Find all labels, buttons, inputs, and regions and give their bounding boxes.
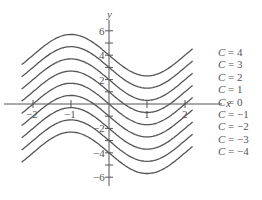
curve-labels: C = 4C = 3C = 2C = 1C = 0C = −1C = −2C =… bbox=[218, 46, 249, 157]
y-tick-label: 2 bbox=[99, 74, 105, 86]
x-tick-label: 1 bbox=[144, 108, 150, 120]
curve-label: C = −4 bbox=[218, 145, 249, 157]
chart-plot: xy−2−112642−2−4−6 C = 4C = 3C = 2C = 1C … bbox=[0, 0, 262, 200]
x-tick-label: −1 bbox=[64, 108, 76, 120]
curve-label: C = 3 bbox=[218, 58, 243, 70]
curve-label: C = −1 bbox=[218, 108, 249, 120]
curve-label: C = −3 bbox=[218, 133, 249, 145]
curve-label: C = 1 bbox=[218, 83, 243, 95]
curve-label: C = 2 bbox=[218, 71, 243, 83]
y-tick-label: 6 bbox=[99, 25, 105, 37]
x-tick-label: −2 bbox=[26, 108, 38, 120]
curve-label: C = 4 bbox=[218, 46, 243, 58]
y-tick-label: −6 bbox=[93, 171, 105, 183]
curve-label: C = 0 bbox=[218, 96, 243, 108]
y-tick-label: −4 bbox=[93, 147, 105, 159]
curve-label: C = −2 bbox=[218, 120, 249, 132]
y-tick-label: 4 bbox=[99, 49, 105, 61]
x-tick-label: 2 bbox=[182, 108, 188, 120]
y-tick-label: −2 bbox=[93, 122, 105, 134]
y-axis-label: y bbox=[106, 8, 112, 20]
